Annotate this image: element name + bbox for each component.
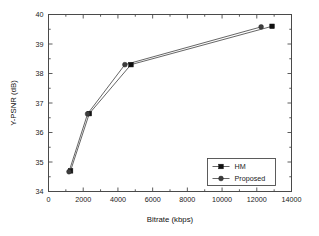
data-point-proposed	[122, 62, 127, 67]
data-point-hm	[129, 62, 134, 67]
y-tick-label: 38	[36, 69, 44, 78]
y-tick-label: 37	[36, 99, 44, 108]
y-tick-label: 39	[36, 40, 44, 49]
x-tick-label: 4000	[110, 195, 126, 204]
chart-legend[interactable]: HMProposed	[208, 159, 276, 186]
x-tick-label: 12000	[247, 195, 267, 204]
data-point-hm	[270, 24, 275, 29]
x-tick-label: 14000	[282, 195, 302, 204]
chart-canvas: 02000400060008000100001200014000 3435363…	[0, 0, 319, 236]
series-line-hm	[71, 26, 273, 171]
x-axis-tick-labels: 02000400060008000100001200014000	[47, 195, 302, 204]
x-tick-label: 10000	[212, 195, 232, 204]
data-series-group	[67, 24, 275, 174]
y-tick-label: 34	[36, 187, 44, 196]
legend-label-proposed[interactable]: Proposed	[235, 174, 266, 183]
chart-figure: 02000400060008000100001200014000 3435363…	[0, 0, 319, 236]
y-tick-label: 35	[36, 158, 44, 167]
x-tick-label: 8000	[179, 195, 195, 204]
x-tick-label: 2000	[75, 195, 91, 204]
x-tick-label: 0	[47, 195, 51, 204]
x-axis-title: Bitrate (kbps)	[147, 215, 194, 224]
y-axis-tick-labels: 34353637383940	[36, 10, 44, 196]
y-tick-label: 40	[36, 10, 44, 19]
data-point-proposed	[259, 24, 264, 29]
data-point-proposed	[85, 112, 90, 117]
data-point-proposed	[67, 169, 72, 174]
y-tick-label: 36	[36, 128, 44, 137]
y-axis-title: Y-PSNR (dB)	[9, 80, 18, 126]
series-line-proposed	[69, 27, 261, 172]
legend-marker-hm	[219, 164, 224, 169]
legend-label-hm[interactable]: HM	[235, 162, 246, 171]
x-tick-label: 6000	[145, 195, 161, 204]
legend-marker-proposed	[219, 176, 224, 181]
